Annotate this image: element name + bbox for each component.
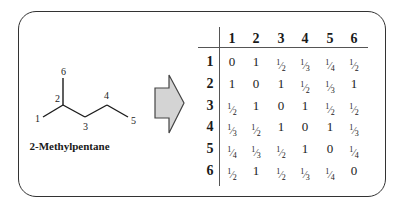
row-header-5: 5 [199, 141, 221, 157]
right-arrow-icon [155, 75, 184, 133]
matrix-cell-r1-c4: 1⁄3 [294, 55, 316, 77]
row-header-2: 2 [199, 76, 221, 92]
matrix-cell-r3-c4: 1 [294, 98, 316, 114]
matrix-cell-r2-c3: 1 [270, 76, 292, 92]
matrix-cell-r5-c5: 0 [319, 141, 341, 157]
matrix-cell-r4-c2: 1⁄2 [245, 120, 267, 142]
matrix-cell-r2-c4: 1⁄2 [294, 77, 316, 99]
row-header-3: 3 [199, 98, 221, 114]
molecule-name: 2-Methylpentane [22, 140, 117, 152]
matrix-cell-r4-c5: 1 [319, 119, 341, 135]
matrix-cell-r4-c4: 0 [294, 119, 316, 135]
atom-label-5: 5 [131, 115, 136, 126]
row-header-1: 1 [199, 54, 221, 70]
column-header-3: 3 [270, 31, 292, 47]
matrix-cell-r1-c1: 0 [221, 54, 243, 70]
matrix-cell-r6-c5: 1⁄4 [319, 164, 341, 186]
matrix-cell-r1-c2: 1 [245, 54, 267, 70]
column-header-5: 5 [319, 31, 341, 47]
matrix-cell-r2-c5: 1⁄3 [319, 77, 341, 99]
atom-label-6: 6 [61, 66, 66, 77]
row-header-4: 4 [199, 119, 221, 135]
atom-label-1: 1 [35, 113, 40, 124]
matrix-cell-r5-c4: 1 [294, 141, 316, 157]
matrix-cell-r3-c2: 1 [245, 98, 267, 114]
column-header-2: 2 [245, 31, 267, 47]
atom-label-4: 4 [104, 90, 109, 101]
matrix-cell-r3-c3: 0 [270, 98, 292, 114]
matrix-cell-r2-c6: 1 [343, 76, 365, 92]
matrix-cell-r6-c1: 1⁄2 [221, 164, 243, 186]
matrix-cell-r4-c1: 1⁄3 [221, 120, 243, 142]
matrix-cell-r4-c6: 1⁄3 [343, 120, 365, 142]
row-header-6: 6 [199, 163, 221, 179]
atom-label-2: 2 [55, 93, 60, 104]
matrix-cell-r1-c5: 1⁄4 [319, 55, 341, 77]
matrix-cell-r6-c3: 1⁄2 [270, 164, 292, 186]
matrix-cell-r6-c4: 1⁄3 [294, 164, 316, 186]
matrix-cell-r5-c6: 1⁄4 [343, 142, 365, 164]
column-header-1: 1 [221, 31, 243, 47]
matrix-cell-r3-c6: 1⁄2 [343, 99, 365, 121]
matrix-cell-r5-c1: 1⁄4 [221, 142, 243, 164]
matrix-cell-r3-c1: 1⁄2 [221, 99, 243, 121]
matrix-cell-r2-c1: 1 [221, 76, 243, 92]
table-header-divider [198, 47, 368, 48]
matrix-cell-r1-c6: 1⁄2 [343, 55, 365, 77]
matrix-cell-r6-c6: 0 [343, 163, 365, 179]
matrix-cell-r5-c2: 1⁄3 [245, 142, 267, 164]
column-header-6: 6 [343, 31, 365, 47]
column-header-4: 4 [294, 31, 316, 47]
atom-label-3: 3 [83, 121, 88, 132]
matrix-cell-r6-c2: 1 [245, 163, 267, 179]
matrix-cell-r3-c5: 1⁄2 [319, 99, 341, 121]
matrix-cell-r1-c3: 1⁄2 [270, 55, 292, 77]
matrix-cell-r5-c3: 1⁄2 [270, 142, 292, 164]
matrix-cell-r2-c2: 0 [245, 76, 267, 92]
matrix-cell-r4-c3: 1 [270, 119, 292, 135]
